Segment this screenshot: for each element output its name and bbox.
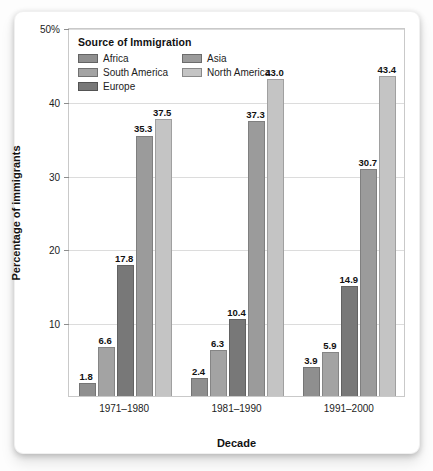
legend-item: Africa	[78, 53, 168, 64]
legend-swatch	[78, 68, 98, 77]
bar	[303, 367, 320, 396]
legend-column-right: AsiaNorth America	[182, 53, 270, 92]
y-axis-tick-label: 40	[49, 97, 60, 108]
y-axis-tick	[64, 324, 69, 325]
bar-value-label: 37.3	[246, 109, 265, 120]
bar	[79, 383, 96, 396]
bar	[341, 286, 358, 396]
legend-item-label: North America	[207, 67, 270, 78]
bar-value-label: 43.4	[378, 64, 397, 75]
legend-item-label: Africa	[103, 53, 129, 64]
y-axis-title: Percentage of immigrants	[10, 145, 22, 280]
bar-value-label: 30.7	[359, 157, 378, 168]
legend-column-left: AfricaSouth AmericaEurope	[78, 53, 168, 92]
chart-legend: Source of Immigration AfricaSouth Americ…	[78, 36, 293, 92]
bar	[191, 378, 208, 396]
bar-value-label: 43.0	[265, 67, 284, 78]
bar	[229, 319, 246, 396]
legend-title: Source of Immigration	[78, 36, 293, 48]
y-axis-tick	[64, 103, 69, 104]
x-axis-title: Decade	[68, 437, 405, 449]
legend-swatch	[182, 68, 202, 77]
bar-value-label: 6.6	[99, 335, 112, 346]
legend-swatch	[78, 82, 98, 91]
gridline	[69, 29, 404, 30]
y-axis-tick	[64, 177, 69, 178]
x-axis-category-label: 1971–1980	[99, 403, 149, 414]
legend-swatch	[78, 54, 98, 63]
y-axis-tick-label: 10	[49, 319, 60, 330]
gridline	[69, 103, 404, 104]
bar-value-label: 3.9	[304, 355, 317, 366]
y-axis-tick	[64, 250, 69, 251]
bar	[360, 169, 377, 396]
legend-item: Asia	[182, 53, 270, 64]
legend-item: Europe	[78, 81, 168, 92]
bar-value-label: 37.5	[153, 107, 172, 118]
bar	[155, 119, 172, 396]
bar-value-label: 6.3	[211, 338, 224, 349]
legend-item: South America	[78, 67, 168, 78]
bar	[267, 79, 284, 396]
bar	[322, 352, 339, 396]
bar	[210, 350, 227, 396]
bar-value-label: 10.4	[227, 307, 246, 318]
legend-columns: AfricaSouth AmericaEurope AsiaNorth Amer…	[78, 53, 293, 92]
gridline	[69, 250, 404, 251]
bar-value-label: 35.3	[134, 123, 153, 134]
y-axis-tick-label: 20	[49, 245, 60, 256]
y-axis-tick	[64, 29, 69, 30]
bar-value-label: 2.4	[192, 366, 205, 377]
legend-item: North America	[182, 67, 270, 78]
x-axis-category-label: 1981–1990	[211, 403, 261, 414]
bar	[379, 76, 396, 396]
x-axis-category-label: 1991–2000	[324, 403, 374, 414]
legend-item-label: Europe	[103, 81, 135, 92]
bar	[117, 265, 134, 396]
bar-value-label: 14.9	[340, 274, 359, 285]
bar-value-label: 5.9	[323, 340, 336, 351]
y-axis-tick-label: 30	[49, 171, 60, 182]
legend-item-label: South America	[103, 67, 168, 78]
bar	[136, 136, 153, 397]
bar	[248, 121, 265, 396]
bar	[98, 347, 115, 396]
gridline	[69, 177, 404, 178]
screenshot-root: Percentage of immigrants 1020304050% Dec…	[0, 0, 433, 471]
y-axis-tick-label: 50%	[40, 24, 60, 35]
bar-value-label: 1.8	[80, 371, 93, 382]
legend-swatch	[182, 54, 202, 63]
bar-value-label: 17.8	[115, 253, 134, 264]
bar-chart-figure: Percentage of immigrants 1020304050% Dec…	[0, 0, 433, 471]
legend-item-label: Asia	[207, 53, 226, 64]
